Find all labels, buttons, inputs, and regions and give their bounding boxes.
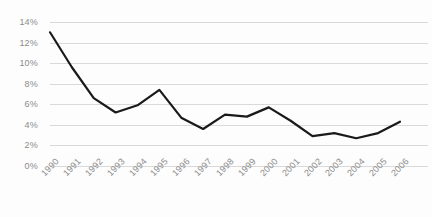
- x-tick-label: 1998: [214, 156, 236, 178]
- line-chart: 0%2%4%6%8%10%12%14% 19901991199219931994…: [0, 0, 432, 217]
- x-tick-label: 1995: [148, 156, 170, 178]
- x-tick-label: 1994: [127, 156, 149, 178]
- x-tick-label: 2001: [280, 156, 302, 178]
- x-tick-label: 2003: [323, 156, 345, 178]
- x-tick-label: 2006: [389, 156, 411, 178]
- x-tick-label: 2000: [258, 156, 280, 178]
- x-tick-label: 1997: [192, 156, 214, 178]
- x-tick-label: 1999: [236, 156, 258, 178]
- x-tick-label: 2005: [367, 156, 389, 178]
- x-tick-label: 1992: [83, 156, 105, 178]
- x-tick-label: 1991: [61, 156, 83, 178]
- x-axis: 1990199119921993199419951996199719981999…: [0, 0, 432, 217]
- x-tick-label: 1990: [39, 156, 61, 178]
- x-tick-label: 2004: [345, 156, 367, 178]
- x-tick-label: 2002: [302, 156, 324, 178]
- x-tick-label: 1993: [105, 156, 127, 178]
- x-tick-label: 1996: [170, 156, 192, 178]
